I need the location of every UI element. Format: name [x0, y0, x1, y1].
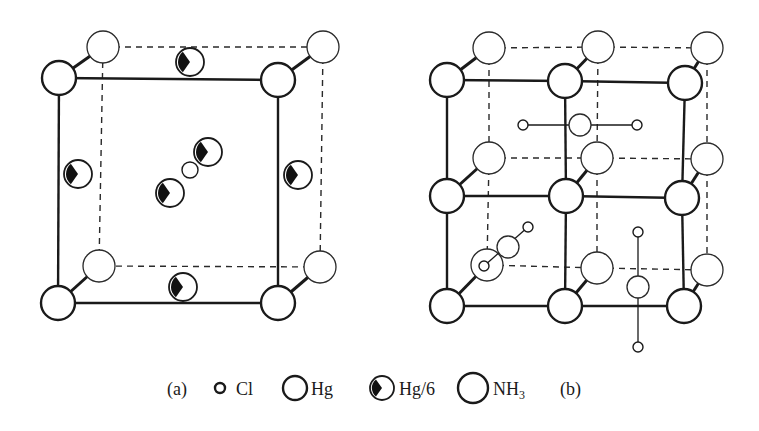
- cl-atom: [182, 162, 198, 178]
- front-edge: [58, 78, 59, 303]
- hg6-atom: [284, 161, 312, 189]
- legend-label: Hg: [311, 379, 333, 399]
- legend-item-cl: Cl: [215, 379, 253, 399]
- hg6-atom: [64, 160, 92, 188]
- hgcl2-molecule: [518, 114, 642, 136]
- hg-atom: [430, 289, 464, 323]
- back-grid-dashed: [597, 47, 598, 158]
- cl-legend-icon: [215, 383, 225, 393]
- nh3-atom: [581, 252, 613, 284]
- caption-a: (a): [167, 379, 187, 400]
- hg-atom: [261, 63, 295, 97]
- nh3-atom: [83, 250, 115, 282]
- hg-legend-icon: [283, 376, 307, 400]
- hg6-legend-icon: [370, 376, 394, 400]
- legend-item-hg-6: Hg/6: [370, 376, 435, 400]
- cl-atom: [632, 120, 642, 130]
- back-edge-dashed: [320, 47, 323, 267]
- hg-atom: [548, 64, 582, 98]
- nh3-atom: [581, 142, 613, 174]
- cl-atom: [523, 222, 533, 232]
- back-edge-dashed: [99, 47, 103, 266]
- nh3-atom: [304, 251, 336, 283]
- cl-atom: [518, 120, 528, 130]
- cl-atom: [479, 261, 489, 271]
- hg-atom: [430, 63, 464, 97]
- legend-label: Cl: [236, 379, 253, 399]
- legend-item-hg: Hg: [283, 376, 333, 400]
- hg-atom: [42, 61, 76, 95]
- hg-atom: [41, 286, 75, 320]
- legend-label: NH3: [493, 379, 525, 402]
- hg-atom: [497, 236, 519, 258]
- diagram-b-unit-cell: [430, 31, 723, 352]
- hg-atom: [548, 289, 582, 323]
- nh3-legend-icon: [458, 373, 488, 403]
- figure-canvas: (a) ClHgHg/6NH3 (b): [0, 0, 759, 431]
- cl-atom: [633, 227, 643, 237]
- hg6-atom: [194, 138, 222, 166]
- nh3-atom: [473, 142, 505, 174]
- hg-atom: [667, 289, 701, 323]
- legend: (a) ClHgHg/6NH3 (b): [167, 373, 581, 403]
- nh3-atom: [582, 31, 614, 63]
- hg6-atom: [176, 48, 204, 76]
- front-edge: [59, 78, 278, 80]
- hg-atom: [668, 66, 702, 100]
- legend-label-subscript: 3: [519, 388, 525, 402]
- hg-atom: [430, 179, 464, 213]
- cl-atom: [633, 342, 643, 352]
- nh3-atom: [473, 32, 505, 64]
- legend-label: Hg/6: [399, 379, 435, 399]
- crystal-structure-figure: (a) ClHgHg/6NH3 (b): [0, 0, 759, 431]
- legend-items: ClHgHg/6NH3: [215, 373, 525, 403]
- hg-atom: [627, 276, 649, 298]
- legend-item-nh3: NH3: [458, 373, 525, 403]
- nh3-atom: [307, 31, 339, 63]
- nh3-atom: [691, 143, 723, 175]
- hg-atom: [261, 286, 295, 320]
- nh3-atom: [691, 254, 723, 286]
- hg-atom: [665, 181, 699, 215]
- nh3-atom: [87, 31, 119, 63]
- hg-atom: [569, 114, 591, 136]
- back-edge-dashed: [99, 266, 320, 267]
- hg6-atom: [169, 273, 197, 301]
- diagram-a-unit-cell: [41, 31, 339, 320]
- hg6-atom: [156, 179, 184, 207]
- hgcl2-molecule: [627, 227, 649, 352]
- caption-b: (b): [560, 379, 581, 400]
- hg-atom: [549, 179, 583, 213]
- nh3-atom: [691, 32, 723, 64]
